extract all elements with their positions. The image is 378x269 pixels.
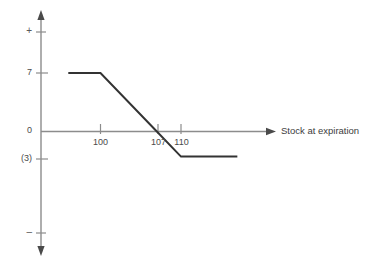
y-tick-label-7: 7 (8, 68, 32, 77)
y-axis-positive-sign-label: + (10, 26, 32, 36)
y-axis-arrow-up-icon (37, 10, 44, 20)
x-axis-title: Stock at expiration (281, 126, 359, 136)
x-tick-label-100: 100 (80, 138, 121, 147)
x-axis-arrow-right-icon (266, 128, 276, 135)
y-axis-arrow-down-icon (37, 246, 44, 256)
payoff-chart-figure: + 7 0 (3) – 100 107 110 Stock at expirat… (0, 0, 378, 269)
y-tick-label-negative-3: (3) (2, 154, 32, 163)
y-axis-negative-sign-label: – (10, 227, 32, 237)
x-tick-label-110: 110 (161, 138, 202, 147)
y-tick-label-0: 0 (8, 126, 32, 135)
